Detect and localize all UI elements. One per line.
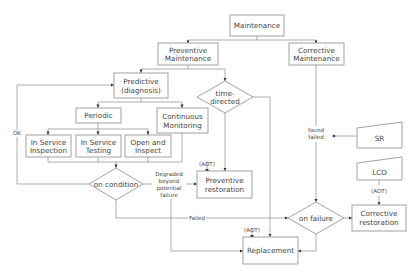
label-ok: OK (13, 130, 21, 136)
node-open-and-inspect: Open and Inspect (125, 135, 171, 157)
svg-text:LCO: LCO (372, 168, 387, 177)
svg-text:on condition: on condition (94, 180, 138, 189)
svg-text:Corrective: Corrective (361, 209, 398, 218)
node-preventive-restoration: Preventive restoration (197, 171, 252, 198)
node-sr: SR (357, 122, 402, 148)
svg-text:Maintenance: Maintenance (293, 54, 340, 63)
svg-text:Periodic: Periodic (84, 111, 112, 120)
node-continuous-monitoring: Continuous Monitoring (157, 108, 208, 133)
node-predictive: Predictive (diagnosis) (114, 73, 168, 98)
svg-text:Preventive: Preventive (205, 176, 244, 185)
node-on-failure: on failure (288, 202, 344, 234)
edge-ok-loop (17, 85, 114, 184)
edge-oncond-failed (116, 200, 188, 218)
svg-text:on failure: on failure (299, 214, 334, 223)
maintenance-flowchart: Maintenance Preventive Maintenance Corre… (0, 0, 420, 276)
edge-periodic-isi (48, 123, 98, 135)
svg-text:Maintenance: Maintenance (234, 21, 281, 30)
svg-text:restoration: restoration (359, 218, 398, 227)
node-periodic: Periodic (76, 108, 121, 123)
node-lco: LCO (357, 157, 402, 180)
label-degraded-3: potential (157, 185, 182, 192)
node-corrective-maintenance: Corrective Maintenance (289, 43, 344, 65)
edge-pred-periodic (98, 98, 141, 108)
label-failed: Failed (189, 215, 206, 221)
svg-text:Monitoring: Monitoring (163, 121, 201, 130)
label-found-1: found (308, 127, 324, 133)
node-on-condition: on condition (89, 168, 143, 200)
svg-text:directed: directed (210, 97, 240, 106)
edge-prev-timedirected (188, 69, 225, 81)
svg-text:Predictive: Predictive (123, 77, 159, 86)
edge-periodic-open (98, 129, 148, 135)
edge-prev-predictive (141, 65, 188, 73)
svg-text:Inspect: Inspect (135, 146, 161, 155)
label-degraded-4: failure (160, 192, 178, 198)
node-corrective-restoration: Corrective restoration (352, 205, 406, 231)
svg-text:(diagnosis): (diagnosis) (121, 86, 161, 95)
label-degraded-2: beyond (159, 178, 180, 185)
svg-text:Continuous: Continuous (162, 112, 203, 121)
edge-pred-continuous (141, 102, 182, 108)
edge-timedirected-replacement (253, 97, 270, 237)
label-found-2: failed (308, 134, 324, 140)
node-maintenance: Maintenance (230, 15, 284, 36)
svg-text:Maintenance: Maintenance (165, 54, 212, 63)
label-aot-corrective: (AOT) (371, 188, 387, 194)
svg-text:Replacement: Replacement (247, 246, 294, 255)
svg-text:Testing: Testing (85, 146, 111, 155)
svg-text:Inspection: Inspection (30, 146, 67, 155)
edge-onfailure-replacement (298, 234, 316, 251)
node-in-service-testing: In Service Testing (76, 135, 121, 157)
label-aot-replacement: (AOT) (244, 227, 260, 233)
edge-maint-corrective (257, 40, 316, 43)
svg-text:SR: SR (375, 134, 385, 143)
edge-maint-preventive (188, 36, 257, 43)
label-degraded-1: Degraded (155, 171, 183, 178)
node-in-service-inspection: In Service Inspection (26, 135, 71, 157)
node-preventive-maintenance: Preventive Maintenance (158, 43, 218, 65)
edge-degraded-replacement (171, 199, 243, 251)
svg-text:restoration: restoration (205, 185, 244, 194)
label-aot-preventive: (AOT) (199, 161, 215, 167)
node-replacement: Replacement (243, 237, 298, 264)
